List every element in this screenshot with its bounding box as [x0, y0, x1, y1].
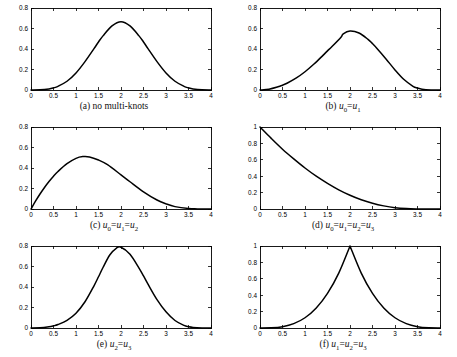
x-tick-label-a-5: 2.5 — [139, 92, 148, 99]
y-tick-label-e-3: 0.6 — [19, 263, 28, 270]
x-tick-label-c-6: 3 — [164, 211, 168, 218]
x-tick-label-f-5: 2.5 — [368, 330, 377, 337]
x-tick-label-e-6: 3 — [164, 330, 168, 337]
plot-area-c: 00.511.522.533.5400.20.40.60.8 — [0, 119, 228, 220]
x-tick-label-a-7: 3.5 — [184, 92, 193, 99]
plot-box-a — [31, 8, 211, 90]
plot-box-f — [260, 246, 440, 328]
x-tick-label-e-5: 2.5 — [139, 330, 148, 337]
x-tick-label-e-8: 4 — [209, 330, 213, 337]
x-tick-label-b-8: 4 — [438, 92, 442, 99]
plot-area-e: 00.511.522.533.5400.20.40.60.8 — [0, 238, 228, 339]
y-tick-label-f-4: 0.8 — [248, 259, 257, 266]
y-tick-label-e-0: 0 — [24, 324, 28, 331]
x-tick-label-a-2: 1 — [74, 92, 78, 99]
y-tick-label-a-0: 0 — [24, 86, 28, 93]
y-tick-label-c-1: 0.2 — [19, 185, 28, 192]
y-tick-label-f-2: 0.4 — [248, 292, 257, 299]
x-tick-label-e-2: 1 — [74, 330, 78, 337]
x-tick-label-d-6: 3 — [393, 211, 397, 218]
plot-box-e — [31, 246, 211, 328]
x-tick-label-e-3: 1.5 — [94, 330, 103, 337]
x-tick-label-b-2: 1 — [303, 92, 307, 99]
x-tick-label-a-3: 1.5 — [94, 92, 103, 99]
x-tick-label-f-6: 3 — [393, 330, 397, 337]
x-tick-label-d-8: 4 — [438, 211, 442, 218]
x-tick-label-b-7: 3.5 — [413, 92, 422, 99]
y-tick-label-b-3: 0.6 — [248, 25, 257, 32]
y-tick-label-e-4: 0.8 — [19, 242, 28, 249]
y-tick-label-a-1: 0.2 — [19, 66, 28, 73]
y-tick-label-a-3: 0.6 — [19, 25, 28, 32]
curve-a — [31, 22, 211, 90]
y-tick-label-c-0: 0 — [24, 205, 28, 212]
y-tick-label-c-4: 0.8 — [19, 123, 28, 130]
x-tick-label-c-5: 2.5 — [139, 211, 148, 218]
x-tick-label-a-1: 0.5 — [49, 92, 58, 99]
curve-e — [31, 247, 211, 328]
x-tick-label-f-3: 1.5 — [323, 330, 332, 337]
y-tick-label-c-3: 0.6 — [19, 144, 28, 151]
y-tick-label-b-4: 0.8 — [248, 4, 257, 11]
x-tick-label-f-0: 0 — [258, 330, 262, 337]
panel-caption-a: (a) no multi-knots — [0, 100, 228, 112]
x-tick-label-f-2: 1 — [303, 330, 307, 337]
chart-panel-f: 00.511.522.533.5400.20.40.60.81(f) u1=u2… — [229, 238, 457, 357]
y-tick-label-c-2: 0.4 — [19, 164, 28, 171]
x-tick-label-b-5: 2.5 — [368, 92, 377, 99]
plot-area-d: 00.511.522.533.5400.20.40.60.81 — [229, 119, 457, 220]
y-tick-label-d-4: 0.8 — [248, 140, 257, 147]
y-tick-label-b-1: 0.2 — [248, 66, 257, 73]
x-tick-label-f-8: 4 — [438, 330, 442, 337]
x-tick-label-c-4: 2 — [119, 211, 123, 218]
plot-area-f: 00.511.522.533.5400.20.40.60.81 — [229, 238, 457, 339]
x-tick-label-d-2: 1 — [303, 211, 307, 218]
y-tick-label-a-2: 0.4 — [19, 45, 28, 52]
panel-caption-b: (b) u0=u1 — [229, 100, 457, 116]
x-tick-label-d-4: 2 — [348, 211, 352, 218]
x-tick-label-e-7: 3.5 — [184, 330, 193, 337]
x-tick-label-a-4: 2 — [119, 92, 123, 99]
x-tick-label-a-0: 0 — [29, 92, 33, 99]
x-tick-label-d-5: 2.5 — [368, 211, 377, 218]
x-tick-label-b-0: 0 — [258, 92, 262, 99]
panel-caption-e: (e) u2=u3 — [0, 338, 228, 354]
x-tick-label-d-1: 0.5 — [278, 211, 287, 218]
panel-caption-f: (f) u1=u2=u3 — [229, 338, 457, 354]
chart-panel-b: 00.511.522.533.5400.20.40.60.8(b) u0=u1 — [229, 0, 457, 119]
y-tick-label-d-2: 0.4 — [248, 173, 257, 180]
y-tick-label-f-5: 1 — [253, 242, 257, 249]
x-tick-label-d-7: 3.5 — [413, 211, 422, 218]
x-tick-label-e-0: 0 — [29, 330, 33, 337]
y-tick-label-b-2: 0.4 — [248, 45, 257, 52]
x-tick-label-b-6: 3 — [393, 92, 397, 99]
x-tick-label-a-6: 3 — [164, 92, 168, 99]
plot-box-b — [260, 8, 440, 90]
plot-area-a: 00.511.522.533.5400.20.40.60.8 — [0, 0, 228, 101]
y-tick-label-e-2: 0.4 — [19, 283, 28, 290]
y-tick-label-d-5: 1 — [253, 123, 257, 130]
x-tick-label-f-1: 0.5 — [278, 330, 287, 337]
x-tick-label-d-3: 1.5 — [323, 211, 332, 218]
y-tick-label-f-3: 0.6 — [248, 275, 257, 282]
x-tick-label-b-1: 0.5 — [278, 92, 287, 99]
x-tick-label-b-4: 2 — [348, 92, 352, 99]
x-tick-label-f-4: 2 — [348, 330, 352, 337]
plot-box-d — [260, 127, 440, 209]
chart-panel-a: 00.511.522.533.5400.20.40.60.8(a) no mul… — [0, 0, 228, 119]
x-tick-label-d-0: 0 — [258, 211, 262, 218]
y-tick-label-d-3: 0.6 — [248, 156, 257, 163]
curve-c — [31, 156, 211, 209]
y-tick-label-e-1: 0.2 — [19, 304, 28, 311]
figure-panel-grid: 00.511.522.533.5400.20.40.60.8(a) no mul… — [0, 0, 457, 357]
curve-b — [260, 31, 440, 90]
x-tick-label-c-8: 4 — [209, 211, 213, 218]
chart-panel-c: 00.511.522.533.5400.20.40.60.8(c) u0=u1=… — [0, 119, 228, 238]
y-tick-label-d-1: 0.2 — [248, 189, 257, 196]
y-tick-label-f-0: 0 — [253, 324, 257, 331]
curve-d — [260, 127, 440, 209]
panel-caption-c: (c) u0=u1=u2 — [0, 219, 228, 235]
chart-panel-e: 00.511.522.533.5400.20.40.60.8(e) u2=u3 — [0, 238, 228, 357]
x-tick-label-e-1: 0.5 — [49, 330, 58, 337]
x-tick-label-c-1: 0.5 — [49, 211, 58, 218]
